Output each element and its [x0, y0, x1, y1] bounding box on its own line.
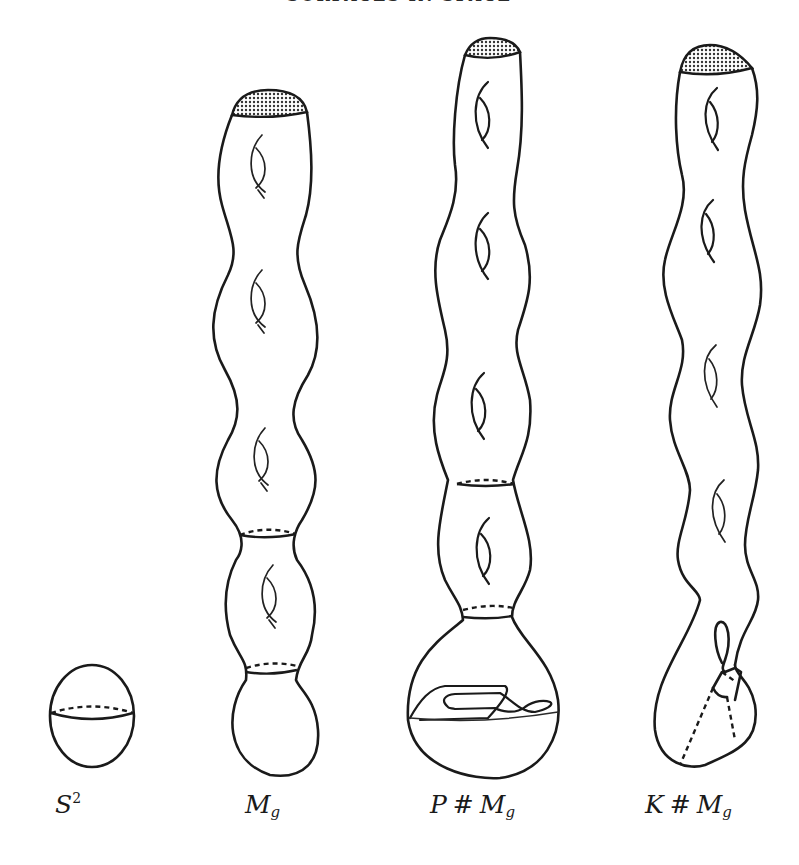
handle-icon — [701, 200, 714, 262]
boundary-cap — [232, 90, 307, 117]
handle-icon — [262, 565, 276, 628]
handle-icon — [476, 82, 490, 148]
label-mg: Mg — [245, 790, 280, 821]
surface-p-connected-sum — [408, 38, 559, 778]
handle-icon — [712, 480, 725, 542]
surfaces-figure — [0, 0, 799, 865]
handle-icon — [472, 373, 486, 439]
handle-icon — [705, 88, 718, 150]
handle-icon — [251, 270, 265, 333]
handle-icon — [251, 135, 265, 198]
boundary-cap — [680, 45, 752, 74]
handle-icon — [477, 518, 491, 584]
label-s2: S2 — [55, 790, 81, 819]
handle-icon — [704, 345, 717, 407]
klein-loop — [715, 622, 728, 672]
surface-k-connected-sum — [655, 45, 762, 767]
handle-icon — [476, 213, 490, 279]
surface-mg — [213, 90, 318, 776]
handle-icon — [254, 428, 268, 491]
boundary-cap — [465, 38, 520, 58]
sphere-s2 — [50, 665, 134, 767]
label-k-sum: K#Mg — [645, 790, 732, 821]
label-p-sum: P#Mg — [430, 790, 515, 821]
crosscap-curve — [410, 686, 507, 720]
